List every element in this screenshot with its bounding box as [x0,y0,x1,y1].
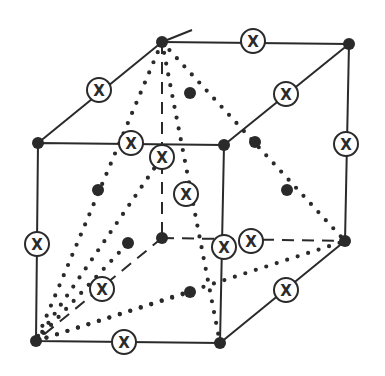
x-site-marker: X [174,182,198,206]
face-center-atom-icon [122,237,134,249]
corner-atom-icon [218,139,230,151]
x-label: X [218,239,230,257]
cube-drawing: XXXXXXXXXXXXX [0,0,385,376]
x-site-marker: X [274,278,298,302]
x-label: X [180,186,192,204]
x-label: X [118,334,130,352]
x-site-marker: X [241,29,265,53]
unit-cell-diagram: XXXXXXXXXXXXX [0,0,385,376]
x-site-marker: X [90,277,114,301]
face-center-atom-icon [249,136,261,148]
corner-atom-icon [30,335,42,347]
x-site-marker: X [212,235,236,259]
x-site-marker: X [274,82,298,106]
corner-atom-icon [156,36,168,48]
corner-atom-icon [214,337,226,349]
x-site-marker: X [87,78,111,102]
x-site-marker: X [112,330,136,354]
x-label: X [31,236,43,254]
x-label: X [96,281,108,299]
corner-atom-icon [343,38,355,50]
x-site-marker: X [25,232,49,256]
x-label: X [280,282,292,300]
x-label: X [125,135,137,153]
face-center-atom-icon [281,184,293,196]
face-center-atom-icon [92,184,104,196]
x-label: X [93,82,105,100]
corner-atom-icon [32,137,44,149]
x-site-marker: X [239,229,263,253]
x-label: X [156,149,168,167]
face-center-atom-icon [184,87,196,99]
x-label: X [280,86,292,104]
corner-atom-icon [156,232,168,244]
x-label: X [247,33,259,51]
x-site-marker: X [119,131,143,155]
face-center-atom-icon [184,286,196,298]
x-site-marker: X [334,132,358,156]
x-label: X [340,136,352,154]
corner-atom-icon [339,235,351,247]
x-site-marker: X [150,145,174,169]
x-label: X [245,233,257,251]
